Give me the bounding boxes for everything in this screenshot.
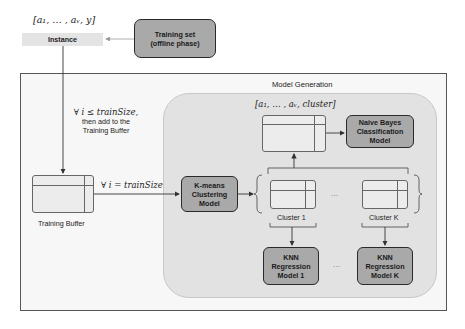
cluster-k-bottom-bracket bbox=[362, 223, 408, 227]
left-brace-icon bbox=[254, 175, 262, 213]
right-brace-icon bbox=[414, 175, 422, 213]
connectors bbox=[0, 0, 465, 329]
cluster-1-bottom-bracket bbox=[270, 223, 316, 227]
cluster-top-bracket bbox=[268, 168, 408, 174]
